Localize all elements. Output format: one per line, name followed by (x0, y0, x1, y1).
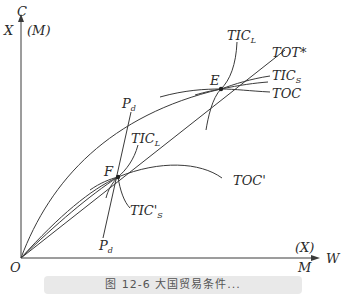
x-axis-arrow (311, 255, 320, 261)
point-f-label: F (103, 164, 114, 179)
offer-curve-large (21, 82, 268, 258)
y-axis-label-m: (M) (27, 23, 50, 38)
point-e-label: E (209, 73, 220, 88)
x-axis-label-w: W (326, 251, 341, 266)
x-axis-label-x: (X) (295, 240, 314, 255)
figure-caption: 图 12-6 大国贸易条件... (44, 276, 302, 294)
y-axis-label-c: C (17, 4, 27, 19)
tic-l-label-top: TICL (227, 28, 256, 45)
origin-label: O (10, 260, 21, 275)
pd-label-bottom: Pd (98, 238, 113, 255)
pd-label-top: Pd (121, 96, 136, 113)
point-f (116, 175, 120, 179)
tic-s-label: TICS (272, 68, 302, 85)
tic-s-prime-label: TIC'S (130, 203, 163, 220)
toc-label: TOC (272, 86, 301, 101)
toc-prime-label: TOC' (233, 173, 266, 188)
tot-star-label: TOT* (272, 45, 307, 60)
tic-l-label-mid: TICL (131, 131, 160, 148)
x-axis-label-m: M (297, 260, 312, 275)
tic-s-curve (195, 76, 270, 95)
y-axis-label-x: X (3, 23, 14, 38)
